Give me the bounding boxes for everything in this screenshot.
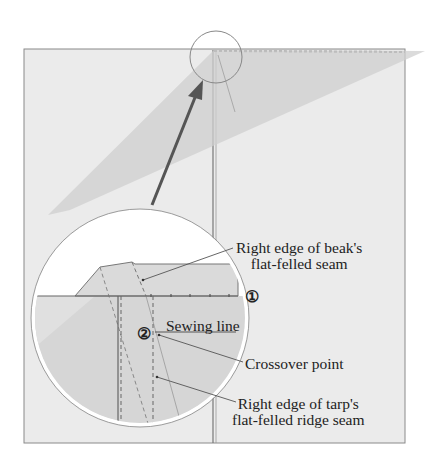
label-beak-edge: Right edge of beak's flat-felled seam: [236, 240, 362, 272]
diagram-canvas: [0, 0, 443, 474]
marker-one: ①: [245, 287, 259, 306]
marker-two: ②: [137, 324, 151, 343]
label-sewing-line: Sewing line: [166, 318, 240, 334]
label-tarp-edge: Right edge of tarp's flat-felled ridge s…: [232, 396, 365, 428]
label-crossover-point: Crossover point: [245, 356, 344, 372]
